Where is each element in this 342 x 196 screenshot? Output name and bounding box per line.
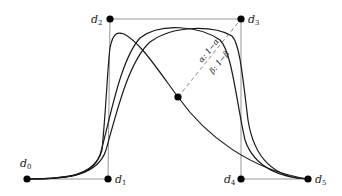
label-d0: d0 [20, 157, 32, 171]
label-d3: d3 [248, 13, 260, 27]
curve-diagram: d0 d1 d2 d3 d4 d5 α: 1−α β: 1−β [0, 0, 342, 196]
control-polygon [27, 19, 308, 179]
point-d2 [106, 15, 113, 22]
label-d1: d1 [115, 173, 127, 187]
curves [27, 28, 308, 179]
curve-2 [27, 28, 308, 179]
point-center [174, 93, 181, 100]
point-d0 [23, 175, 30, 182]
point-d3 [237, 15, 244, 22]
curve-3 [27, 28, 308, 179]
control-points [23, 15, 311, 182]
curve-1 [27, 33, 308, 179]
point-d5 [304, 175, 311, 182]
label-d4: d4 [224, 173, 236, 187]
label-d5: d5 [315, 173, 327, 187]
label-d2: d2 [91, 13, 103, 27]
point-d1 [104, 175, 111, 182]
dashed-shape-line [178, 19, 241, 97]
point-d4 [237, 175, 244, 182]
